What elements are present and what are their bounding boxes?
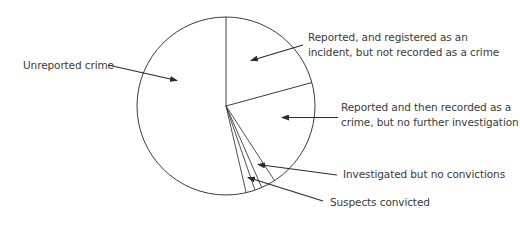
label-line: Reported and then recorded as a [341, 100, 519, 115]
label-line: crime, but no further investigation [341, 115, 519, 130]
label-suspects-convicted: Suspects convicted [330, 195, 430, 210]
label-unreported-crime: Unreported crime [23, 58, 114, 73]
label-line: Unreported crime [23, 58, 114, 73]
arrow-suspects-convicted [248, 178, 323, 202]
label-line: Reported, and registered as an [308, 30, 499, 45]
label-registered-not-recorded: Reported, and registered as an incident,… [308, 30, 499, 59]
label-line: Suspects convicted [330, 195, 430, 210]
label-recorded-no-investigation: Reported and then recorded as a crime, b… [341, 100, 519, 129]
label-investigated-no-convictions: Investigated but no convictions [343, 167, 505, 182]
label-line: Investigated but no convictions [343, 167, 505, 182]
label-line: incident, but not recorded as a crime [308, 45, 499, 60]
